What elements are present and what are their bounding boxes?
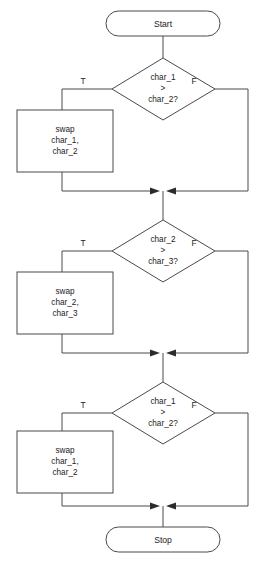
decision-1: char_1 > char_2? <box>112 58 215 120</box>
start-terminal: Start <box>106 11 220 36</box>
decision-2-line-1: char_2 <box>150 235 175 244</box>
decision-1-line-3: char_2? <box>148 95 178 104</box>
stop-terminal: Stop <box>106 527 220 552</box>
connector-decision-3-false <box>215 413 248 506</box>
decision-1-true-label: T <box>80 76 85 86</box>
start-terminal-label: Start <box>154 19 173 29</box>
decision-2-false-label: F <box>191 238 196 248</box>
merge-1-right-arrowhead <box>166 188 176 195</box>
stop-terminal-label: Stop <box>154 535 172 545</box>
decision-3-line-2: > <box>161 408 166 417</box>
merge-2-right-arrowhead <box>166 350 176 357</box>
flowchart-canvas: Start char_1 > char_2? T F swap char_1, … <box>0 0 266 571</box>
decision-3-false-label: F <box>191 400 196 410</box>
decision-2-line-2: > <box>161 246 166 255</box>
decision-3-true-label: T <box>80 400 85 410</box>
flowchart-diagram: Start char_1 > char_2? T F swap char_1, … <box>0 0 266 571</box>
connector-decision-2-false <box>215 251 248 353</box>
process-2-line-3: char_3 <box>52 309 77 318</box>
process-3-line-3: char_2 <box>52 468 77 477</box>
process-1: swap char_1, char_2 <box>17 110 113 172</box>
merge-3-right-arrowhead <box>166 503 176 510</box>
process-1-line-3: char_2 <box>52 147 77 156</box>
process-3-line-2: char_1, <box>51 457 78 466</box>
merge-2-left-arrowhead <box>150 350 160 357</box>
process-1-line-2: char_1, <box>51 136 78 145</box>
decision-3: char_1 > char_2? <box>112 382 215 444</box>
merge-3-left-arrowhead <box>150 503 160 510</box>
decision-2-true-label: T <box>80 238 85 248</box>
decision-1-line-2: > <box>161 84 166 93</box>
decision-2: char_2 > char_3? <box>112 220 215 282</box>
decision-2-line-3: char_3? <box>148 257 178 266</box>
decision-1-line-1: char_1 <box>150 73 175 82</box>
merge-1-left-arrowhead <box>150 188 160 195</box>
process-3: swap char_1, char_2 <box>17 431 113 493</box>
decision-3-line-1: char_1 <box>150 397 175 406</box>
connector-decision-1-false <box>215 89 248 191</box>
process-2-line-2: char_2, <box>51 298 78 307</box>
decision-1-false-label: F <box>191 76 196 86</box>
decision-3-line-3: char_2? <box>148 419 178 428</box>
process-3-line-1: swap <box>55 446 75 455</box>
process-1-line-1: swap <box>55 125 75 134</box>
process-2-line-1: swap <box>55 287 75 296</box>
process-2: swap char_2, char_3 <box>17 272 113 334</box>
